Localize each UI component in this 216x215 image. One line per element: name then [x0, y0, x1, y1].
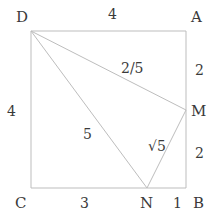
length-MN: √5	[148, 138, 166, 154]
length-DN: 5	[83, 126, 92, 142]
vertex-label-B: B	[193, 194, 204, 212]
segment-DM	[31, 31, 186, 110]
length-AM: 2	[195, 62, 204, 78]
vertex-label-M: M	[191, 102, 206, 120]
length-DM: 2/5	[121, 60, 144, 76]
length-CN: 3	[80, 195, 89, 211]
length-DA: 4	[108, 6, 117, 22]
geometry-diagram: D A M C N B 4 4 2 2 3 1 2/5 5 √5	[0, 0, 216, 215]
length-NB: 1	[173, 195, 182, 211]
vertex-label-D: D	[16, 8, 28, 26]
vertex-label-A: A	[190, 8, 202, 26]
segment-DN	[31, 31, 147, 188]
length-MB: 2	[195, 145, 204, 161]
vertex-label-C: C	[15, 194, 26, 212]
length-DC: 4	[7, 103, 16, 119]
vertex-label-N: N	[140, 194, 153, 212]
